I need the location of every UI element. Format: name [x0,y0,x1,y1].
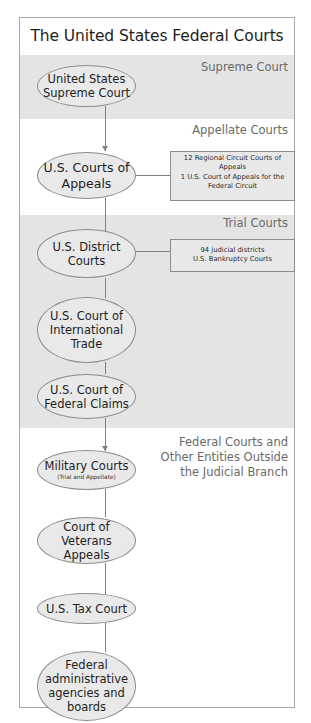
section-label-trial-courts: Trial Courts [223,216,288,231]
node-military-courts: Military Courts (Trial and Appellate) [37,450,136,490]
node-federal-claims: U.S. Court of Federal Claims [37,374,136,419]
node-courts-of-appeals: U.S. Courts of Appeals [37,152,136,199]
node-tax-court: U.S. Tax Court [37,593,136,624]
node-supreme-court: United States Supreme Court [37,65,136,107]
connector-tax-to-agencies [105,623,106,652]
connector-veterans-to-tax [105,563,106,594]
connector-district-to-trade [105,278,106,298]
section-label-supreme-court: Supreme Court [201,60,288,75]
connector-trade-to-claims [105,362,106,374]
note-appeals-detail: 12 Regional Circuit Courts of Appeals 1 … [170,151,295,201]
connector-supreme-to-appeals [105,106,106,151]
connector-appeals-to-note [136,175,170,176]
arrow-head-icon [102,146,108,151]
node-admin-agencies: Federal administrative agencies and boar… [37,651,136,721]
note-district-detail: 94 judicial districts U.S. Bankruptcy Co… [170,239,295,272]
node-district-courts: U.S. District Courts [37,229,136,278]
node-veterans-appeals: Court of Veterans Appeals [37,517,136,564]
diagram-frame: The United States Federal Courts Supreme… [19,17,295,708]
connector-district-to-note [136,251,170,252]
section-label-other-entities: Federal Courts and Other Entities Outsid… [161,435,288,480]
node-international-trade: U.S. Court of International Trade [37,297,136,363]
diagram-title: The United States Federal Courts [20,18,294,55]
connector-military-to-veterans [105,489,106,517]
section-label-appellate-courts: Appellate Courts [192,123,288,138]
